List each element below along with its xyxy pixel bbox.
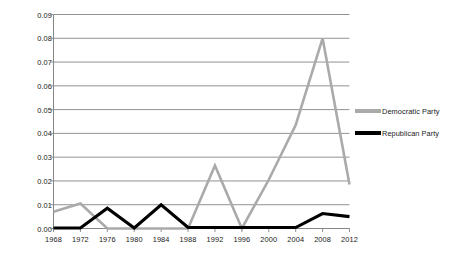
x-tick-label: 1992 xyxy=(207,235,224,244)
chart-legend: Democratic Party Republican Party xyxy=(355,100,455,144)
x-tick-label: 2008 xyxy=(314,235,331,244)
legend-swatch-republican-party xyxy=(355,131,381,136)
legend-label-democratic-party: Democratic Party xyxy=(382,107,439,116)
x-tick-label: 2012 xyxy=(341,235,358,244)
x-tick-label: 2004 xyxy=(287,235,304,244)
x-tick-label: 1996 xyxy=(233,235,250,244)
x-tick-label: 1980 xyxy=(126,235,143,244)
x-tick-label: 2000 xyxy=(260,235,277,244)
series-line-republican-party xyxy=(54,205,350,228)
line-chart: 0.000.010.020.030.040.050.060.070.080.09… xyxy=(0,0,455,270)
legend-item-republican-party: Republican Party xyxy=(355,122,455,144)
legend-item-democratic-party: Democratic Party xyxy=(355,100,455,122)
x-tick-label: 1988 xyxy=(180,235,197,244)
legend-swatch-democratic-party xyxy=(355,109,381,113)
x-tick-label: 1972 xyxy=(72,235,89,244)
x-tick-label: 1976 xyxy=(99,235,116,244)
x-tick-label: 1984 xyxy=(153,235,170,244)
legend-label-republican-party: Republican Party xyxy=(382,129,439,138)
x-tick-label: 1968 xyxy=(45,235,62,244)
